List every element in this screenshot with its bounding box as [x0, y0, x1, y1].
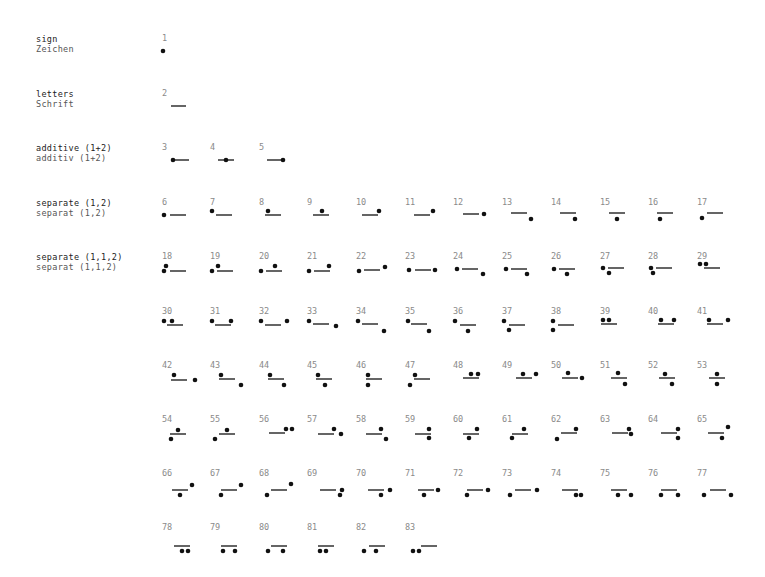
dot — [659, 318, 664, 323]
glyph-cell: 63 — [600, 414, 640, 446]
glyph-symbol-icon — [162, 360, 206, 394]
dot — [162, 269, 167, 274]
glyph-cell: 5 — [259, 142, 299, 174]
dot — [551, 319, 556, 324]
glyph-cell: 79 — [210, 522, 250, 554]
glyph-symbol-icon — [648, 414, 692, 448]
dot — [210, 319, 215, 324]
glyph-symbol-icon — [551, 251, 595, 285]
dot — [224, 158, 229, 163]
dot — [239, 483, 244, 488]
dot — [178, 493, 183, 498]
glyph-symbol-icon — [453, 251, 497, 285]
glyph-cell: 57 — [307, 414, 347, 446]
glyph-cell: 66 — [162, 468, 202, 500]
glyph-cell: 22 — [356, 251, 396, 283]
glyph-symbol-icon — [600, 360, 644, 394]
dot — [521, 372, 526, 377]
dot — [702, 493, 707, 498]
dot — [466, 329, 471, 334]
glyph-symbol-icon — [210, 251, 254, 285]
dot — [190, 483, 195, 488]
dot — [573, 217, 578, 222]
dot — [522, 427, 527, 432]
group-label-de: separat (1,1,2) — [36, 262, 123, 272]
glyph-symbol-icon — [162, 88, 206, 122]
glyph-cell: 81 — [307, 522, 347, 554]
dot — [510, 436, 515, 441]
glyph-symbol-icon — [600, 468, 644, 502]
dot — [213, 437, 218, 442]
dot — [281, 158, 286, 163]
glyph-symbol-icon — [210, 142, 254, 176]
dot — [161, 49, 166, 54]
glyph-cell: 78 — [162, 522, 202, 554]
glyph-cell: 6 — [162, 197, 202, 229]
glyph-symbol-icon — [307, 197, 351, 231]
dot — [186, 549, 191, 554]
dot — [221, 549, 226, 554]
glyph-cell: 48 — [453, 360, 493, 392]
dot — [388, 488, 393, 493]
glyph-cell: 12 — [453, 197, 493, 229]
glyph-cell: 59 — [405, 414, 445, 446]
glyph-symbol-icon — [307, 360, 351, 394]
glyph-cell: 83 — [405, 522, 445, 554]
group-label-de: separat (1,2) — [36, 208, 112, 218]
glyph-cell: 30 — [162, 306, 202, 338]
dot — [579, 493, 584, 498]
glyph-cell: 47 — [405, 360, 445, 392]
glyph-cell: 2 — [162, 88, 202, 120]
group-label-de: Schrift — [36, 99, 74, 109]
dot — [704, 262, 709, 267]
glyph-symbol-icon — [648, 306, 692, 340]
glyph-cell: 32 — [259, 306, 299, 338]
group-label: lettersSchrift — [36, 89, 74, 109]
glyph-cell: 19 — [210, 251, 250, 283]
dot — [172, 373, 177, 378]
dot — [219, 373, 224, 378]
glyph-symbol-icon — [356, 468, 400, 502]
dot — [565, 272, 570, 277]
dot — [455, 267, 460, 272]
glyph-cell: 39 — [600, 306, 640, 338]
dot — [580, 376, 585, 381]
glyph-cell: 29 — [697, 251, 737, 283]
dot — [382, 329, 387, 334]
dot — [658, 217, 663, 222]
group-label-de: additiv (1+2) — [36, 153, 112, 163]
dot — [615, 217, 620, 222]
glyph-cell: 8 — [259, 197, 299, 229]
dot — [649, 266, 654, 271]
glyph-cell: 27 — [600, 251, 640, 283]
dot — [273, 264, 278, 269]
glyph-cell: 67 — [210, 468, 250, 500]
glyph-symbol-icon — [162, 306, 206, 340]
glyph-symbol-icon — [648, 251, 692, 285]
glyph-cell: 24 — [453, 251, 493, 283]
glyph-symbol-icon — [600, 251, 644, 285]
dot — [504, 267, 509, 272]
dot — [216, 264, 221, 269]
dot — [170, 319, 175, 324]
dot — [362, 549, 367, 554]
glyph-cell: 52 — [648, 360, 688, 392]
glyph-cell: 61 — [502, 414, 542, 446]
dot — [431, 209, 436, 214]
glyph-symbol-icon — [502, 197, 546, 231]
dot — [659, 493, 664, 498]
dot — [475, 427, 480, 432]
dot — [698, 262, 703, 267]
glyph-symbol-icon — [697, 468, 741, 502]
dot — [289, 482, 294, 487]
dot — [357, 269, 362, 274]
dot — [266, 209, 271, 214]
dot — [566, 371, 571, 376]
glyph-symbol-icon — [210, 414, 254, 448]
dot — [467, 436, 472, 441]
glyph-symbol-icon — [259, 522, 303, 556]
glyph-symbol-icon — [551, 414, 595, 448]
glyph-symbol-icon — [697, 251, 741, 285]
dot — [327, 264, 332, 269]
glyph-symbol-icon — [453, 468, 497, 502]
